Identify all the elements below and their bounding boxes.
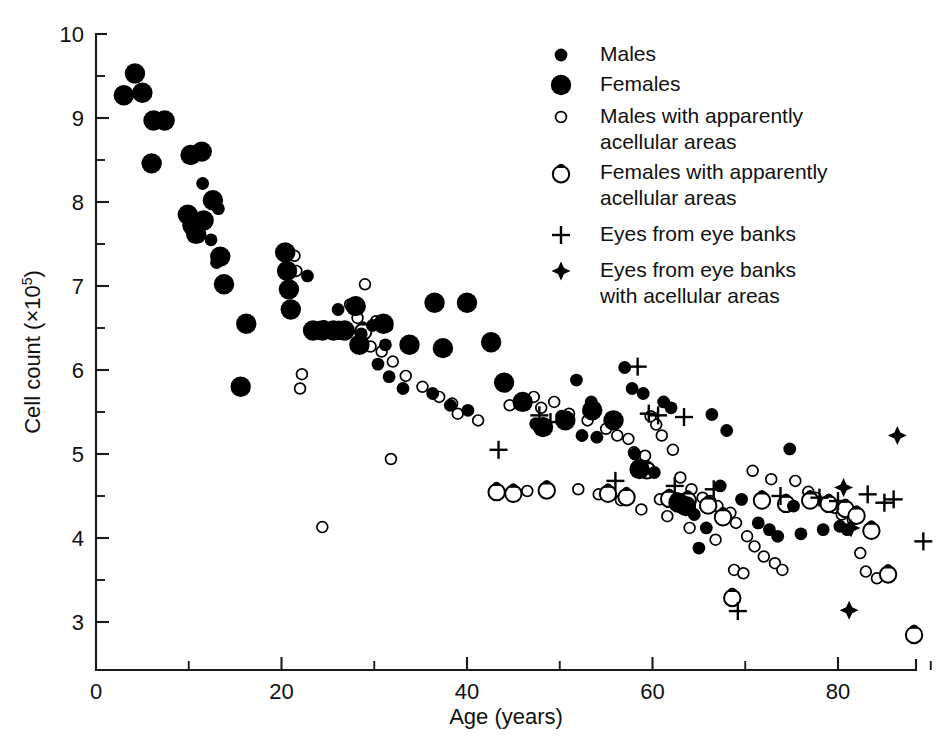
data-point [700,496,716,514]
legend-marker-small-filled-circle-icon [555,49,568,62]
legend-item-4[interactable]: Eyes from eye banks [552,222,796,245]
data-point [636,504,647,515]
data-point [665,401,678,414]
legend-label-line2: acellular areas [600,130,737,153]
data-point [628,448,641,461]
legend-label: Females [600,72,681,95]
data-point [863,521,879,539]
legend-marker-large-filled-circle-icon [551,75,571,95]
legend-item-2[interactable]: Males with apparentlyacellular areas [556,104,804,153]
data-point [349,335,369,355]
data-point [332,303,345,316]
data-point [576,429,589,442]
data-point [656,430,667,441]
data-point [754,491,770,509]
data-point [855,548,866,559]
data-point [457,293,477,313]
legend-marker-filled-diamond-star-icon [552,262,571,281]
legend-layer: MalesFemalesMales with apparentlyacellul… [551,42,828,307]
data-point [738,568,749,579]
data-point [346,296,366,316]
y-tick-label: 4 [72,526,84,551]
data-point [132,83,152,103]
data-point [473,415,484,426]
data-point [612,430,623,441]
data-point [715,508,731,526]
data-point [203,190,223,210]
data-point [790,475,801,486]
x-tick-label: 40 [455,679,479,704]
data-point [675,472,686,483]
data-point [570,374,583,387]
data-point [802,491,818,509]
data-point [875,494,893,512]
data-point [533,417,553,437]
data-point [481,332,501,352]
data-point [462,404,475,417]
legend-label-line2: acellular areas [600,186,737,209]
data-point [417,381,428,392]
data-point [387,356,398,367]
legend-item-1[interactable]: Females [551,72,681,95]
data-point [752,516,765,529]
data-point [626,382,639,395]
data-point [590,431,603,444]
axis-labels-layer: Age (years)Cell count (×105) [19,270,563,729]
y-tick-label: 5 [72,442,84,467]
data-point [600,484,616,502]
y-tick-label: 7 [72,274,84,299]
data-point [623,433,634,444]
data-point [277,261,297,281]
data-point [795,527,808,540]
data-point [735,493,748,506]
data-point [490,441,508,459]
data-point [648,466,661,479]
data-point [426,387,439,400]
x-tick-label: 60 [640,679,664,704]
data-point [301,270,314,283]
data-point [914,532,932,550]
legend-marker-large-open-circle-notched-icon [553,164,569,182]
data-point [114,85,134,105]
data-point [125,63,145,83]
data-point [840,601,859,620]
data-point [771,530,784,543]
legend-label: Eyes from eye banks [600,222,796,245]
data-point [859,485,877,503]
data-point [539,481,555,499]
legend-item-3[interactable]: Females with apparentlyacellular areas [553,160,828,209]
legend-item-5[interactable]: Eyes from eye bankswith acellular areas [552,258,797,307]
data-point [196,177,209,190]
scatter-plot: 345678910020406080 MalesFemalesMales wit… [0,0,939,748]
data-point [397,382,410,395]
data-point [205,233,218,246]
data-point [522,486,533,497]
data-point [549,397,560,408]
data-point [444,399,457,412]
data-points-layer [114,63,933,643]
data-point [141,153,161,173]
data-point [629,358,647,376]
data-point [880,565,896,583]
data-point [749,541,760,552]
data-point [192,141,212,161]
data-point [675,408,693,426]
data-point [512,392,532,412]
data-point [817,523,830,536]
data-point [488,482,504,500]
y-tick-label: 10 [60,22,84,47]
data-point [906,625,922,643]
data-point [317,522,328,533]
data-point [372,358,385,371]
legend-label-line2: with acellular areas [599,284,780,307]
svg-text:Cell count (×105): Cell count (×105) [19,270,45,434]
data-point [186,224,206,244]
data-point [360,279,371,290]
data-point [888,426,907,445]
legend-item-0[interactable]: Males [555,42,656,65]
data-point [494,372,514,392]
data-point [668,444,679,455]
data-point [297,369,308,380]
legend-marker-plus-icon [552,226,570,244]
data-point [692,542,705,555]
